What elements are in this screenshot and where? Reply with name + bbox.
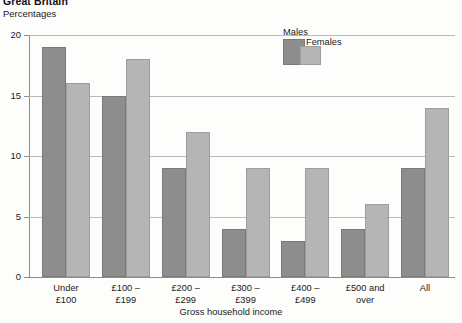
bar-females-1 — [126, 59, 150, 277]
bar-group — [102, 35, 150, 277]
bar-females-2 — [186, 132, 210, 277]
y-tick-label-5: 5 — [0, 212, 21, 222]
bar-males-0 — [42, 47, 66, 277]
legend-swatch-females — [300, 46, 321, 65]
y-tick-label-10: 10 — [0, 151, 21, 161]
bar-group — [401, 35, 449, 277]
bar-males-2 — [162, 168, 186, 277]
legend-label-males: Males — [283, 27, 308, 37]
y-tick-label-15: 15 — [0, 91, 21, 101]
legend-label-females: Females — [306, 37, 342, 47]
y-axis-ticks: 05101520 — [0, 0, 29, 323]
x-axis-label-line1: All — [390, 283, 460, 295]
bar-females-3 — [246, 168, 270, 277]
bar-females-4 — [305, 168, 329, 277]
chart-page: Great Britain Percentages 05101520 Males… — [0, 0, 462, 323]
bar-group — [222, 35, 270, 277]
bar-females-0 — [66, 83, 90, 277]
x-axis-label-6: All — [390, 283, 460, 295]
bar-males-3 — [222, 229, 246, 277]
x-axis-title: Gross household income — [0, 307, 462, 317]
bar-males-5 — [341, 229, 365, 277]
bar-group — [341, 35, 389, 277]
bar-group — [281, 35, 329, 277]
gridline-0 — [29, 277, 455, 278]
bar-group — [162, 35, 210, 277]
bar-males-1 — [102, 96, 126, 278]
y-tick-label-0: 0 — [0, 272, 21, 282]
x-axis-label-line2: over — [330, 295, 400, 307]
plot-area — [29, 35, 455, 277]
bar-group — [42, 35, 90, 277]
chart-legend: Males Females — [281, 27, 371, 69]
y-tick-label-20: 20 — [0, 30, 21, 40]
bar-females-6 — [425, 108, 449, 277]
bar-males-4 — [281, 241, 305, 277]
bar-males-6 — [401, 168, 425, 277]
bar-females-5 — [365, 204, 389, 277]
